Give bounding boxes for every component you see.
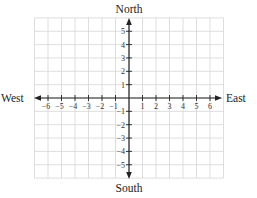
south-label: South — [116, 182, 143, 194]
x-tick-label: 6 — [208, 102, 212, 111]
y-tick-label: −5 — [116, 161, 125, 170]
east-arrow-icon — [215, 95, 222, 101]
y-tick-label: −4 — [116, 147, 125, 156]
y-tick-label: −3 — [116, 134, 125, 143]
x-tick-label: 5 — [195, 102, 199, 111]
x-tick-label: 3 — [168, 102, 172, 111]
x-tick-label: −3 — [82, 102, 91, 111]
x-tick-label: −5 — [55, 102, 64, 111]
y-tick-label: 2 — [121, 67, 125, 76]
west-arrow-icon — [34, 95, 41, 101]
east-label: East — [226, 92, 247, 104]
axes — [34, 18, 222, 179]
y-tick-label: 5 — [121, 27, 125, 36]
x-tick-label: 2 — [154, 102, 158, 111]
y-tick-label: 4 — [121, 41, 125, 50]
x-tick-label: −6 — [42, 102, 51, 111]
coordinate-plane: −6−5−4−3−2−112345654321−1−2−3−4−5 North … — [0, 0, 257, 198]
west-label: West — [1, 92, 25, 104]
x-tick-label: −2 — [96, 102, 105, 111]
y-tick-label: 1 — [121, 81, 125, 90]
x-tick-label: 4 — [181, 102, 185, 111]
north-arrow-icon — [126, 18, 132, 25]
y-tick-label: −2 — [116, 121, 125, 130]
x-tick-label: 1 — [141, 102, 145, 111]
x-tick-label: −4 — [69, 102, 78, 111]
y-tick-label: 3 — [121, 54, 125, 63]
y-tick-label: −1 — [116, 107, 125, 116]
north-label: North — [116, 3, 143, 15]
